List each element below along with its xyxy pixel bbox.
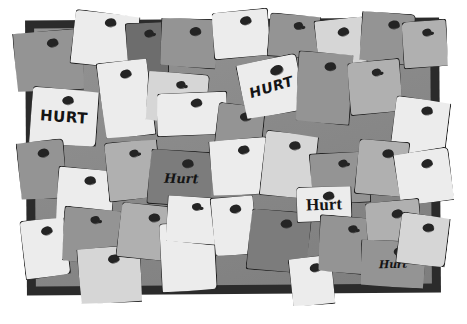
note-blank[interactable] <box>210 8 272 61</box>
note-with-label[interactable]: HURT <box>28 86 100 149</box>
pushpin-icon[interactable] <box>143 28 154 37</box>
pushpin-icon[interactable] <box>84 175 97 185</box>
pushpin-icon[interactable] <box>371 67 382 76</box>
pushpin-icon[interactable] <box>119 68 132 80</box>
note-blank[interactable] <box>400 18 449 69</box>
pushpin-icon[interactable] <box>181 158 194 168</box>
pushpin-icon[interactable] <box>189 26 202 37</box>
pushpin-icon[interactable] <box>239 15 252 27</box>
pushpin-icon[interactable] <box>387 19 400 29</box>
pushpin-icon[interactable] <box>40 225 53 237</box>
pushpin-icon[interactable] <box>420 157 433 169</box>
pushpin-icon[interactable] <box>237 144 250 156</box>
note-blank[interactable] <box>294 50 355 126</box>
pushpin-icon[interactable] <box>336 26 349 38</box>
pushpin-icon[interactable] <box>90 215 100 223</box>
note-blank[interactable] <box>395 211 451 269</box>
pushpin-icon[interactable] <box>337 158 348 167</box>
pushpin-icon[interactable] <box>348 224 358 232</box>
pushpin-icon[interactable] <box>104 17 116 27</box>
illustration-canvas: HURTHURTHurtHurtHurt <box>0 0 467 324</box>
pushpin-icon[interactable] <box>382 148 395 158</box>
pushpin-icon[interactable] <box>421 27 432 36</box>
pushpin-icon[interactable] <box>288 140 300 150</box>
pushpin-icon[interactable] <box>191 202 201 210</box>
note-label-text: HURT <box>248 73 293 100</box>
pushpin-icon[interactable] <box>176 80 186 88</box>
pushpin-icon[interactable] <box>421 106 433 116</box>
note-blank[interactable] <box>159 17 220 70</box>
note-label-text: Hurt <box>164 171 199 185</box>
pushpin-icon[interactable] <box>324 61 337 71</box>
pushpin-icon[interactable] <box>46 37 59 49</box>
pushpin-icon[interactable] <box>148 212 160 222</box>
pushpin-icon[interactable] <box>128 148 139 158</box>
pushpin-icon[interactable] <box>36 147 49 159</box>
pushpin-icon[interactable] <box>293 21 303 29</box>
pushpin-icon[interactable] <box>190 97 203 108</box>
pushpin-icon[interactable] <box>61 95 74 105</box>
note-blank[interactable] <box>393 146 456 207</box>
pushpin-icon[interactable] <box>422 223 434 233</box>
pushpin-icon[interactable] <box>228 203 241 215</box>
pushpin-icon[interactable] <box>280 218 293 228</box>
note-label-text: HURT <box>40 108 89 126</box>
